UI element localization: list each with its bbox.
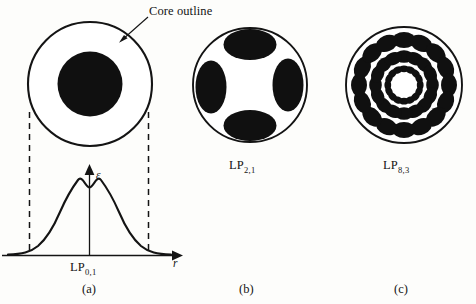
panel-b-mode-pattern (193, 28, 307, 142)
panel-b-lobe-bottom (224, 110, 277, 141)
panel-a-mode-label-base: LP (70, 260, 85, 274)
panel-b-lobe-left (196, 61, 227, 114)
panel-b-mode-label-base: LP (229, 158, 244, 172)
figure-root: Core outline ε r LP0,1 LP2,1 LP8,3 (a) (… (0, 0, 476, 304)
panel-b-lobe-right (273, 59, 304, 112)
panel-b-mode-label-subscript: 2,1 (244, 165, 256, 175)
panel-c-mode-label-base: LP (383, 158, 398, 172)
panel-a-caption: (a) (82, 283, 96, 296)
y-axis-arrowhead (85, 164, 95, 175)
figure-canvas (0, 0, 476, 304)
panel-b-mode-label: LP2,1 (229, 159, 256, 174)
panel-a-cross-section (28, 22, 152, 146)
core-outline-annotation-label: Core outline (149, 5, 212, 18)
y-axis-label-epsilon: ε (96, 170, 101, 182)
panel-b-lobe-top (224, 29, 277, 60)
panel-c-caption: (c) (394, 283, 408, 296)
panel-b-caption: (b) (239, 283, 254, 296)
panel-c-mode-pattern (346, 27, 462, 143)
panel-a-mode-label: LP0,1 (70, 261, 97, 276)
panel-c-mode-label: LP8,3 (383, 159, 410, 174)
panel-a-mode-spot (58, 52, 123, 117)
panel-a-mode-label-subscript: 0,1 (85, 267, 97, 277)
x-axis-label-r: r (173, 258, 177, 270)
panel-c-mode-label-subscript: 8,3 (398, 165, 410, 175)
